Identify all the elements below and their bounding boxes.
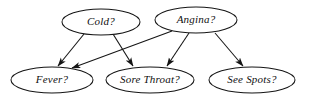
node-see-spots[interactable]: See Spots? [209,67,295,93]
bayesian-network-diagram: Cold? Angina? Fever? Sore Throat? See Sp… [0,0,309,100]
edge-angina-to-see-spots [215,33,243,66]
edge-cold-to-sore-throat [113,34,133,66]
edge-group [58,31,243,68]
edge-angina-to-sore-throat [167,33,189,66]
node-sore-throat[interactable]: Sore Throat? [106,67,194,93]
node-cold[interactable]: Cold? [62,9,140,35]
node-group: Cold? Angina? Fever? Sore Throat? See Sp… [11,7,295,93]
node-angina[interactable]: Angina? [155,7,237,33]
node-fever[interactable]: Fever? [11,67,93,93]
node-see-spots-label: See Spots? [227,73,277,85]
edge-angina-to-fever [72,31,172,68]
node-cold-label: Cold? [87,15,115,27]
node-fever-label: Fever? [35,73,69,85]
graph-canvas: Cold? Angina? Fever? Sore Throat? See Sp… [0,0,309,100]
node-angina-label: Angina? [176,13,216,25]
edge-cold-to-fever [58,34,84,66]
node-sore-throat-label: Sore Throat? [120,73,180,85]
